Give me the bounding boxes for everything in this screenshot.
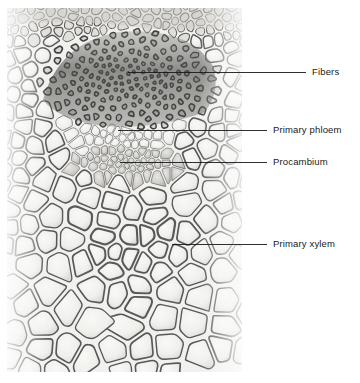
callout-label-primary-xylem: Primary xylem — [273, 239, 335, 249]
callout-label-procambium: Procambium — [273, 157, 328, 167]
micrograph-canvas — [7, 8, 242, 372]
callout-label-primary-phloem: Primary phloem — [273, 125, 342, 135]
micrograph-grain — [7, 8, 242, 372]
callout-label-fibers: Fibers — [312, 67, 339, 77]
figure-root: Fibers Primary phloem Procambium Primary… — [0, 0, 360, 383]
micrograph-image — [7, 8, 242, 372]
